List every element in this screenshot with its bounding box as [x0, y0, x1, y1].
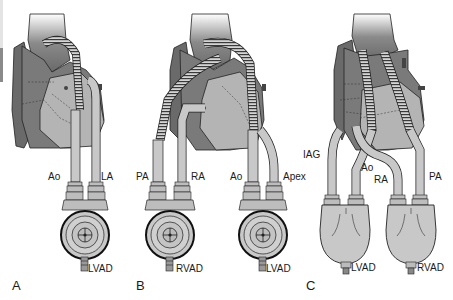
label-ao-c: Ao — [361, 163, 373, 173]
label-ra-b: RA — [191, 172, 205, 182]
label-rvad-b: RVAD — [176, 264, 203, 274]
panel-a-lvad-pump — [61, 200, 109, 271]
panel-letter-c: C — [306, 279, 315, 292]
label-ao-b: Ao — [230, 172, 242, 182]
label-ao-a: Ao — [48, 172, 60, 182]
label-lvad-a: LVAD — [88, 264, 113, 274]
label-pa-c: PA — [429, 172, 442, 182]
label-rvad-c: RVAD — [417, 263, 444, 273]
label-apex-b: Apex — [283, 172, 306, 182]
label-lvad-c: LVAD — [351, 263, 376, 273]
panel-b-rvad-pump — [145, 200, 195, 271]
diagram-illustration — [0, 0, 453, 300]
label-la-a: LA — [101, 172, 113, 182]
label-lvad-b: LVAD — [266, 264, 291, 274]
panel-letter-b: B — [136, 279, 145, 292]
label-pa-b: PA — [136, 172, 149, 182]
label-iag-c: IAG — [303, 150, 320, 160]
panel-b-lvad-pump — [239, 200, 287, 271]
vad-diagram-figure: Ao LA LVAD A PA RA Ao Apex RVAD LVAD B I… — [0, 0, 453, 300]
label-ra-c: RA — [374, 175, 388, 185]
panel-letter-a: A — [12, 279, 21, 292]
